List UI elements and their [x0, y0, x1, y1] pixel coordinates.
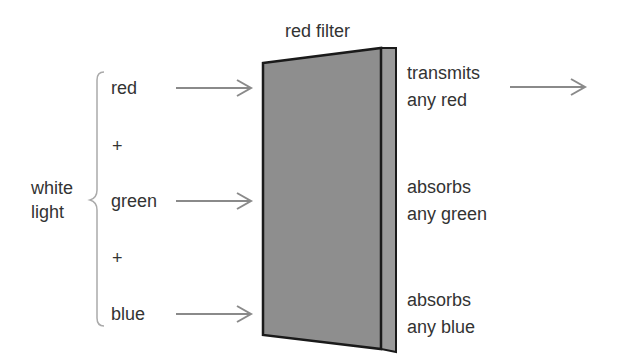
- output-green-line2: any green: [407, 203, 487, 225]
- arrow-icon: [176, 80, 251, 96]
- white-light-label-line1: white: [31, 177, 73, 199]
- plus-label: +: [112, 135, 123, 157]
- output-red-line2: any red: [407, 89, 467, 111]
- red-filter-slab: [263, 48, 396, 352]
- output-green-line1: absorbs: [407, 176, 471, 198]
- brace-icon: [90, 72, 104, 326]
- output-blue-line2: any blue: [407, 316, 475, 338]
- output-red-line1: transmits: [407, 62, 480, 84]
- diagram-graphics: [0, 0, 627, 363]
- arrow-icon: [176, 306, 251, 322]
- arrow-icon: [176, 193, 251, 209]
- plus-label: +: [112, 247, 123, 269]
- filter-title: red filter: [285, 20, 350, 42]
- arrow-out-icon: [510, 79, 585, 95]
- input-blue-label: blue: [111, 303, 145, 325]
- diagram-canvas: red filter white light red + green + blu…: [0, 0, 627, 363]
- output-blue-line1: absorbs: [407, 289, 471, 311]
- white-light-label-line2: light: [31, 201, 64, 223]
- input-red-label: red: [111, 77, 137, 99]
- input-green-label: green: [111, 190, 157, 212]
